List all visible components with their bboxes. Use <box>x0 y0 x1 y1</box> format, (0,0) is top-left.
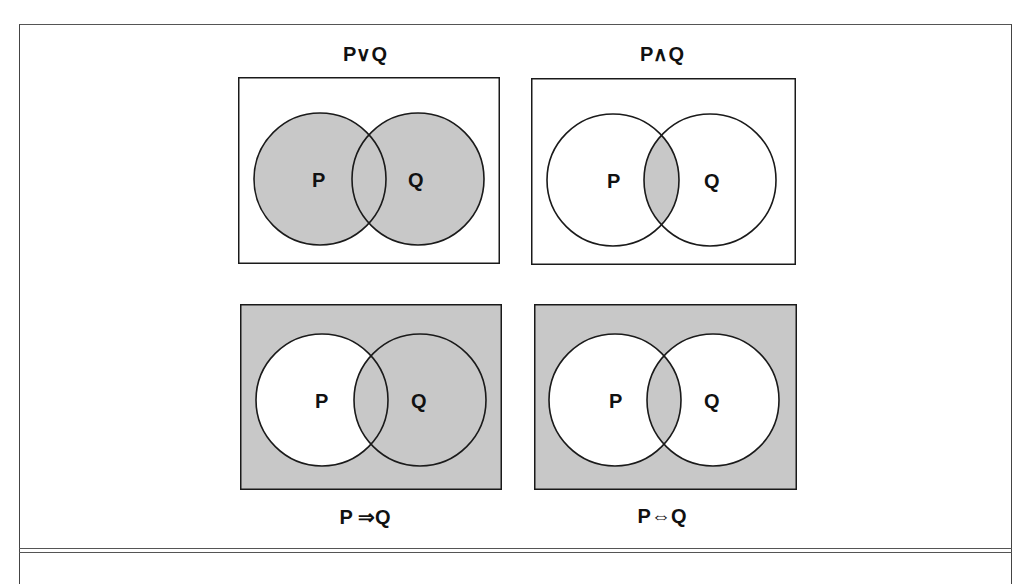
venn-implies: P Q <box>240 304 502 490</box>
label-p: P <box>609 390 622 412</box>
divider-rule-bottom <box>19 552 1012 553</box>
label-q: Q <box>411 390 427 412</box>
label-q: Q <box>408 169 424 191</box>
venn-and: P Q <box>531 78 796 265</box>
title-iff: P⇔Q <box>562 505 762 528</box>
label-p: P <box>315 390 328 412</box>
venn-iff: P Q <box>534 304 797 490</box>
title-or: P∨Q <box>265 42 465 66</box>
label-p: P <box>312 169 325 191</box>
label-q: Q <box>704 390 720 412</box>
title-and: P∧Q <box>562 42 762 66</box>
title-implies: P ⇒Q <box>265 505 465 529</box>
divider-rule-top <box>19 548 1012 549</box>
label-q: Q <box>704 170 720 192</box>
label-p: P <box>607 170 620 192</box>
venn-or: P Q <box>238 77 500 264</box>
figure-frame <box>19 24 1012 584</box>
